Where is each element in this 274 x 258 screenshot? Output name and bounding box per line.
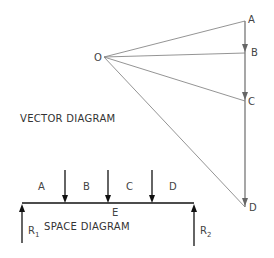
vector-rays (104, 21, 245, 207)
reaction-r1-letter: R (28, 225, 35, 236)
vector-diagram-title: VECTOR DIAGRAM (20, 114, 116, 124)
space-label-c: C (126, 182, 133, 192)
space-label-a: A (38, 182, 45, 192)
vector-point-d: D (249, 203, 257, 213)
space-diagram-title: SPACE DIAGRAM (44, 222, 130, 232)
space-label-b: B (83, 182, 90, 192)
diagram-canvas: O A B C D VECTOR DIAGRAM A B C D E R1 SP… (0, 0, 274, 258)
reaction-r1-label: R1 (28, 226, 39, 239)
vector-point-b: B (251, 48, 258, 58)
pole-label-o: O (94, 53, 102, 63)
reaction-r2-label: R2 (200, 226, 211, 239)
vector-point-c: C (248, 97, 255, 107)
reaction-r2-letter: R (200, 225, 207, 236)
space-label-e: E (112, 208, 118, 218)
reaction-r2-subscript: 2 (207, 231, 211, 239)
space-label-d: D (169, 182, 177, 192)
vector-point-a: A (248, 15, 255, 25)
reaction-r1-subscript: 1 (35, 231, 39, 239)
diagram-svg (0, 0, 274, 258)
load-arrows (62, 170, 155, 203)
